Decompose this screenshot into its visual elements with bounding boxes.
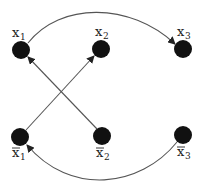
edge-nx1-to-x2	[26, 56, 94, 130]
svg-text:1: 1	[20, 32, 26, 42]
svg-text:3: 3	[185, 31, 191, 41]
node-not-x2	[93, 127, 111, 145]
svg-text:3: 3	[185, 151, 191, 161]
svg-text:1: 1	[20, 152, 26, 162]
label-not-x3: x 3	[177, 144, 191, 161]
label-x2: x 2	[95, 24, 109, 41]
node-x3	[174, 40, 192, 58]
node-not-x1	[11, 128, 29, 146]
svg-text:x: x	[96, 145, 104, 160]
implication-graph: x 1 x 2 x 3 x 1 x 2 x 3	[0, 0, 203, 192]
label-not-x2: x 2	[96, 145, 110, 162]
label-x3: x 3	[177, 24, 191, 41]
svg-text:x: x	[12, 145, 20, 160]
svg-text:2: 2	[103, 31, 109, 41]
node-x1	[12, 41, 30, 59]
label-x1: x 1	[12, 25, 26, 42]
node-x2	[92, 40, 110, 58]
label-not-x1: x 1	[12, 145, 26, 162]
svg-text:x: x	[95, 24, 103, 39]
node-not-x3	[174, 126, 192, 144]
edge-nx2-to-x1	[28, 57, 97, 129]
svg-text:x: x	[177, 144, 185, 159]
svg-text:x: x	[12, 25, 20, 40]
svg-text:2: 2	[104, 152, 110, 162]
svg-text:x: x	[177, 24, 185, 39]
